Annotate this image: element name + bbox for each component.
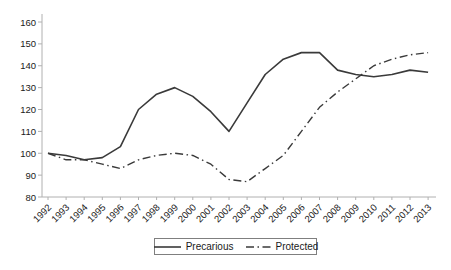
- x-tick-label: 2009: [338, 202, 361, 225]
- solid-line-icon: [153, 243, 182, 251]
- x-tick-label: 2010: [356, 202, 379, 225]
- legend-label-protected: Protected: [276, 241, 319, 252]
- x-tick-label: 2011: [375, 202, 397, 224]
- x-tick-label: 2012: [393, 202, 416, 225]
- legend: Precarious Protected: [154, 238, 317, 255]
- x-tick-label: 2005: [266, 202, 289, 225]
- x-tick-label: 2002: [212, 202, 235, 225]
- x-tick-label: 2003: [230, 202, 253, 225]
- x-tick-label: 2008: [320, 202, 343, 225]
- y-tick-label: 160: [20, 17, 36, 28]
- y-tick-label: 150: [20, 38, 36, 49]
- y-tick-label: 80: [25, 192, 36, 203]
- x-tick-label: 2007: [302, 202, 325, 225]
- x-tick-label: 1994: [67, 202, 90, 225]
- y-tick-label: 130: [20, 82, 36, 93]
- x-tick-label: 2004: [248, 202, 271, 225]
- x-tick-label: 1992: [31, 202, 54, 225]
- series-line-precarious: [48, 53, 428, 160]
- legend-item-protected: Protected: [245, 241, 319, 252]
- x-tick-label: 1996: [103, 202, 126, 225]
- legend-label-precarious: Precarious: [186, 241, 234, 252]
- x-tick-label: 1995: [85, 202, 108, 225]
- x-tick-label: 2006: [284, 202, 307, 225]
- x-tick-label: 1993: [49, 202, 72, 225]
- x-tick-label: 1999: [157, 202, 180, 225]
- y-tick-label: 140: [20, 60, 36, 71]
- chart-figure: 8090100110120130140150160199219931994199…: [0, 0, 451, 270]
- dashdot-line-icon: [245, 243, 272, 251]
- legend-item-precarious: Precarious: [153, 241, 234, 252]
- x-tick-label: 1998: [139, 202, 162, 225]
- chart-canvas: 8090100110120130140150160199219931994199…: [0, 0, 451, 270]
- y-tick-label: 110: [21, 126, 36, 137]
- x-tick-label: 2001: [194, 202, 217, 225]
- y-tick-label: 120: [20, 104, 36, 115]
- y-tick-label: 90: [25, 170, 36, 181]
- x-tick-label: 2000: [175, 202, 198, 225]
- y-tick-label: 100: [20, 148, 36, 159]
- x-tick-label: 2013: [411, 202, 434, 225]
- x-tick-label: 1997: [121, 202, 144, 225]
